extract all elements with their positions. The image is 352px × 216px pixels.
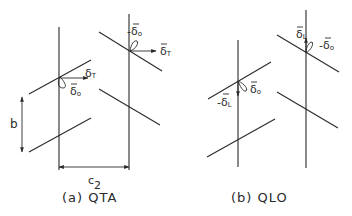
pitch-b-label: b xyxy=(10,117,18,131)
delta-o-label-left: δo xyxy=(70,85,81,98)
neg-delta-o-loop-right xyxy=(130,41,138,51)
left-upper-blade xyxy=(208,62,271,99)
left-lower-blade xyxy=(207,119,275,157)
caption-a: (a) QTA xyxy=(62,190,117,205)
delta-t-label-right: δT xyxy=(160,45,172,58)
left-lower-blade xyxy=(29,118,91,152)
right-lower-blade xyxy=(277,92,338,128)
neg-delta-o-label-right: -δo xyxy=(127,25,142,38)
neg-delta-o-label-right: -δo xyxy=(319,39,334,52)
cascade-diagram: δT δo -δo δT b c2 (a) QTA -δL δo δL -δo xyxy=(0,0,352,216)
panel-a-qta: δT δo -δo δT b c2 (a) QTA xyxy=(10,14,172,205)
delta-t-label-left: δT xyxy=(85,67,97,80)
panel-b-qlo: -δL δo δL -δo (b) QLO xyxy=(207,10,339,205)
neg-delta-l-label-left: -δL xyxy=(217,96,232,109)
delta-o-loop-left xyxy=(238,81,247,91)
neg-delta-o-loop-right xyxy=(306,42,313,53)
caption-b: (b) QLO xyxy=(231,190,288,205)
delta-l-label-right: δL xyxy=(296,28,307,41)
delta-o-label-left: δo xyxy=(250,83,261,96)
